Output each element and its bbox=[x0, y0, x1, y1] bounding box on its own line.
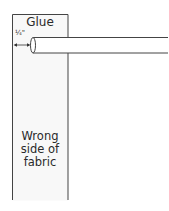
glue-label: Glue bbox=[12, 16, 68, 29]
fabric-label-line: fabric bbox=[12, 156, 68, 169]
rod bbox=[31, 38, 169, 54]
fabric-label: Wrong side of fabric bbox=[12, 130, 68, 169]
diagram-canvas bbox=[0, 0, 168, 211]
measurement-label: ¼" bbox=[15, 30, 25, 37]
